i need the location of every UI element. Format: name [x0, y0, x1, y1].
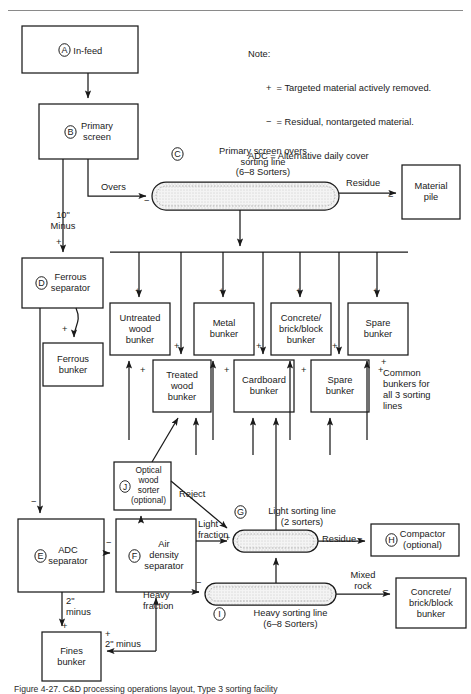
sign-plus-ten-inch: + [56, 237, 61, 248]
edge-label-light-fraction: Light fraction [198, 519, 229, 541]
svg-text:A: A [61, 45, 67, 55]
sign-plus-spare: + [373, 286, 378, 297]
svg-text:I: I [218, 609, 221, 619]
sign-minus-residue-top: − [388, 192, 393, 203]
fines-bunker-label: Fines bunker [42, 632, 101, 681]
sign-plus-treated: + [174, 341, 179, 352]
node-h-label: Compactor (optional) [400, 529, 445, 551]
edge-d-to-ferrous-bunker [74, 308, 78, 337]
conveyor-i [205, 583, 336, 605]
sign-plus-cardboard: + [256, 341, 261, 352]
sign-minus-adc: − [31, 497, 36, 508]
node-f-label: Air density separator [144, 539, 183, 572]
sign-plus-concrete: + [296, 286, 301, 297]
node-i-key-icon: I [213, 607, 226, 625]
edge-label-heavy-fraction: Heavy fraction [143, 590, 174, 612]
edge-label-reject: Reject [179, 489, 205, 500]
sign-plus-feed-metal: + [224, 365, 229, 376]
sign-plus-light: + [225, 533, 230, 544]
svg-text:B: B [67, 127, 73, 137]
material-pile-label: Material pile [402, 165, 460, 219]
edge-label-residue-light: Residue [322, 534, 356, 545]
sign-minus-mixed-rock: − [383, 586, 388, 597]
bunker-label-cardboard: Cardboard bunker [234, 360, 294, 412]
node-d-label-wrap: D Ferrous separator [22, 258, 103, 308]
bunker-label-spare: Spare bunker [348, 303, 408, 355]
sign-minus-e-to-f: − [106, 538, 111, 549]
ferrous-bunker-label: Ferrous bunker [43, 343, 103, 386]
svg-text:D: D [38, 278, 45, 288]
svg-text:F: F [132, 551, 138, 561]
node-a-label-wrap: A In-feed [22, 26, 138, 73]
conveyor-c [152, 182, 339, 210]
bunker-label-treated-wood: Treated wood bunker [153, 360, 211, 412]
bunker-label-untreated-wood: Untreated wood bunker [110, 303, 170, 355]
sign-plus-feed-untreated: + [140, 365, 145, 376]
edge-label-mixed-rock: Mixed rock [340, 570, 386, 592]
sign-plus-untreated: + [135, 286, 140, 297]
conveyor-g [233, 530, 318, 552]
concrete-bunker-bottom-label: Concrete/ brick/block bunker [396, 578, 466, 628]
sign-minus-residue-light: − [357, 534, 362, 545]
sign-minus-heavy: − [196, 578, 201, 589]
edge-j-to-treated-wood [152, 418, 178, 462]
node-e-label: ADC separator [48, 545, 87, 567]
node-j-label-wrap: J Optical wood sorter (optional) [114, 462, 171, 510]
sign-plus-metal: + [219, 286, 224, 297]
note-line-plus: + = Targeted material actively removed. [266, 83, 431, 94]
edge-label-residue-top: Residue [346, 178, 380, 189]
svg-text:H: H [388, 535, 395, 545]
note-line-minus: − = Residual, nontargeted material. [266, 117, 431, 128]
svg-text:G: G [237, 507, 244, 517]
node-g-title: Light sorting line (2 sorters) [247, 506, 357, 527]
note-title: Note: [248, 49, 431, 60]
node-j-label: Optical wood sorter (optional) [131, 466, 166, 505]
sign-plus-two-inch-return: + [105, 629, 110, 640]
bunker-label-metal: Metal bunker [194, 303, 254, 355]
sign-plus-spare2: + [332, 341, 337, 352]
bunker-label-spare-2: Spare bunker [311, 360, 369, 412]
edge-label-ten-inch-minus: 10" Minus [31, 210, 95, 231]
node-b-label-wrap: B Primary screen [39, 104, 138, 159]
node-h-label-wrap: H Compactor (optional) [371, 524, 459, 556]
node-c-key-icon: C [171, 147, 184, 165]
sign-minus-overs: − [144, 196, 149, 207]
node-f-label-wrap: F Air density separator [116, 519, 196, 592]
node-b-label: Primary screen [81, 121, 113, 143]
node-d-label: Ferrous separator [51, 272, 90, 294]
svg-text:E: E [38, 551, 44, 561]
bunker-label-concrete: Concrete/ brick/block bunker [271, 303, 331, 355]
figure-caption: Figure 4-27. C&D processing operations l… [14, 684, 278, 694]
edge-label-two-inch-minus-b: 2" minus [105, 639, 141, 650]
node-a-label: In-feed [73, 46, 102, 56]
sign-plus-ferrous: + [62, 324, 67, 335]
sign-plus-feed-concrete: + [301, 365, 306, 376]
edge-label-common-bunkers: Common bunkers for all 3 sorting lines [383, 368, 431, 412]
node-e-label-wrap: E ADC separator [18, 519, 104, 592]
svg-text:C: C [174, 149, 181, 159]
edge-label-overs: Overs [101, 182, 126, 193]
sign-plus-common: + [381, 357, 386, 368]
svg-text:J: J [123, 481, 127, 491]
node-c-title: Primary screen overs sorting line (6–8 S… [173, 146, 353, 178]
sign-plus-fines: + [62, 621, 67, 632]
node-i-title: Heavy sorting line (6–8 Sorters) [228, 608, 353, 629]
node-g-key-icon: G [234, 505, 247, 523]
edge-label-two-inch-minus-a: 2" minus [66, 596, 91, 618]
